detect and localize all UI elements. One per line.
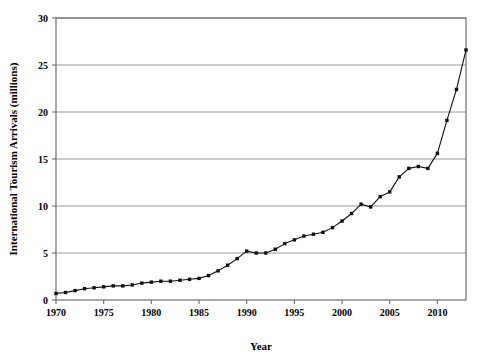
x-tick-label: 1995 xyxy=(284,307,304,318)
data-point xyxy=(464,48,467,51)
data-point xyxy=(226,264,229,267)
y-axis-tick-labels: 051015202530 xyxy=(38,13,48,306)
data-point xyxy=(112,284,115,287)
y-tick-label: 25 xyxy=(38,60,48,71)
data-point xyxy=(54,292,57,295)
data-point xyxy=(302,234,305,237)
data-point xyxy=(388,190,391,193)
data-point xyxy=(436,152,439,155)
x-tick-label: 1985 xyxy=(189,307,209,318)
data-point xyxy=(169,280,172,283)
data-point xyxy=(159,280,162,283)
data-point xyxy=(245,249,248,252)
y-tick-label: 5 xyxy=(43,248,48,259)
y-tick-label: 15 xyxy=(38,154,48,165)
data-point xyxy=(216,269,219,272)
x-tick-label: 1975 xyxy=(94,307,114,318)
gridlines xyxy=(56,18,466,253)
data-series-tourism-arrivals xyxy=(54,48,467,295)
data-point xyxy=(102,285,105,288)
y-tick-label: 10 xyxy=(38,201,48,212)
data-point xyxy=(83,287,86,290)
data-point xyxy=(293,238,296,241)
y-tick-label: 0 xyxy=(43,295,48,306)
data-point xyxy=(369,205,372,208)
line-chart: 197019751980198519901995200020052010 051… xyxy=(0,0,488,358)
x-tick-label: 2005 xyxy=(380,307,400,318)
data-point xyxy=(131,283,134,286)
x-tick-label: 2000 xyxy=(332,307,352,318)
data-point xyxy=(255,251,258,254)
data-point xyxy=(121,284,124,287)
data-point xyxy=(140,281,143,284)
data-point xyxy=(417,165,420,168)
data-point xyxy=(331,226,334,229)
data-point xyxy=(321,231,324,234)
data-point xyxy=(312,233,315,236)
x-axis-title: Year xyxy=(250,340,272,352)
data-point xyxy=(378,195,381,198)
data-point xyxy=(426,167,429,170)
data-point xyxy=(274,248,277,251)
x-tick-label: 2010 xyxy=(427,307,447,318)
data-point xyxy=(340,219,343,222)
data-point xyxy=(350,212,353,215)
y-axis-title: International Tourism Arrivals (millions… xyxy=(7,62,20,255)
data-point xyxy=(178,279,181,282)
series-line xyxy=(56,50,466,293)
data-point xyxy=(188,278,191,281)
data-point xyxy=(398,175,401,178)
data-point xyxy=(92,286,95,289)
data-point xyxy=(207,274,210,277)
data-point xyxy=(455,88,458,91)
data-point xyxy=(197,277,200,280)
data-point xyxy=(359,202,362,205)
data-point xyxy=(445,119,448,122)
x-tick-label: 1970 xyxy=(46,307,66,318)
data-point xyxy=(264,251,267,254)
data-point xyxy=(64,291,67,294)
x-tick-label: 1980 xyxy=(141,307,161,318)
data-point xyxy=(283,242,286,245)
data-point xyxy=(73,289,76,292)
data-point xyxy=(235,257,238,260)
y-tick-label: 30 xyxy=(38,13,48,24)
chart-figure: 197019751980198519901995200020052010 051… xyxy=(0,0,488,358)
data-point xyxy=(150,280,153,283)
data-point xyxy=(407,167,410,170)
x-tick-label: 1990 xyxy=(237,307,257,318)
y-tick-label: 20 xyxy=(38,107,48,118)
x-axis-tick-labels: 197019751980198519901995200020052010 xyxy=(46,307,447,318)
